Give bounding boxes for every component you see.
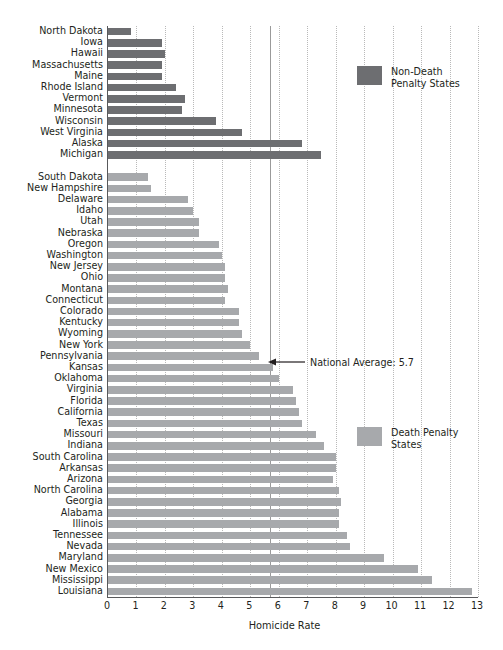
bar-row bbox=[108, 196, 478, 204]
left-arrow-icon bbox=[268, 357, 308, 367]
bar-wisconsin bbox=[108, 117, 216, 125]
y-label-florida: Florida bbox=[0, 396, 103, 406]
bar-row bbox=[108, 297, 478, 305]
bar-minnesota bbox=[108, 106, 182, 114]
legend-death-penalty: Death Penalty States bbox=[357, 427, 458, 450]
bar-new-jersey bbox=[108, 263, 225, 271]
bar-row bbox=[108, 39, 478, 47]
bar-row bbox=[108, 207, 478, 215]
bar-row bbox=[108, 408, 478, 416]
y-label-massachusetts: Massachusetts bbox=[0, 60, 103, 70]
y-label-new-hampshire: New Hampshire bbox=[0, 183, 103, 193]
bar-wyoming bbox=[108, 330, 242, 338]
y-label-arkansas: Arkansas bbox=[0, 463, 103, 473]
bar-florida bbox=[108, 397, 296, 405]
bar-row bbox=[108, 308, 478, 316]
national-average-label: National Average: 5.7 bbox=[310, 357, 414, 368]
bar-row bbox=[108, 330, 478, 338]
x-axis-title-text: Homicide Rate bbox=[249, 620, 321, 631]
y-label-alaska: Alaska bbox=[0, 138, 103, 148]
y-label-wyoming: Wyoming bbox=[0, 328, 103, 338]
bar-massachusetts bbox=[108, 61, 162, 69]
bar-row bbox=[108, 173, 478, 181]
bar-new-hampshire bbox=[108, 185, 151, 193]
y-label-louisiana: Louisiana bbox=[0, 586, 103, 596]
bar-idaho bbox=[108, 207, 193, 215]
y-label-new-jersey: New Jersey bbox=[0, 261, 103, 271]
bar-south-dakota bbox=[108, 173, 148, 181]
y-label-maryland: Maryland bbox=[0, 552, 103, 562]
bar-maryland bbox=[108, 554, 384, 562]
x-tick-5: 5 bbox=[246, 600, 252, 612]
bar-row bbox=[108, 151, 478, 159]
bar-row bbox=[108, 229, 478, 237]
y-label-georgia: Georgia bbox=[0, 496, 103, 506]
bar-south-carolina bbox=[108, 453, 336, 461]
y-label-virginia: Virginia bbox=[0, 384, 103, 394]
bar-indiana bbox=[108, 442, 324, 450]
legend-non-death-penalty: Non-Death Penalty States bbox=[357, 66, 460, 89]
y-label-montana: Montana bbox=[0, 284, 103, 294]
y-label-west-virginia: West Virginia bbox=[0, 127, 103, 137]
bar-row bbox=[108, 185, 478, 193]
y-label-connecticut: Connecticut bbox=[0, 295, 103, 305]
x-tick-2: 2 bbox=[161, 600, 167, 612]
bar-utah bbox=[108, 218, 199, 226]
y-label-minnesota: Minnesota bbox=[0, 104, 103, 114]
bar-illinois bbox=[108, 520, 339, 528]
x-tick-7: 7 bbox=[303, 600, 309, 612]
bar-row bbox=[108, 576, 478, 584]
bar-row bbox=[108, 487, 478, 495]
y-label-michigan: Michigan bbox=[0, 149, 103, 159]
plot-area bbox=[107, 26, 478, 598]
bar-row bbox=[108, 95, 478, 103]
x-tick-11: 11 bbox=[414, 600, 426, 612]
bar-montana bbox=[108, 285, 228, 293]
bar-row bbox=[108, 218, 478, 226]
y-label-ohio: Ohio bbox=[0, 272, 103, 282]
bar-row bbox=[108, 520, 478, 528]
bar-row bbox=[108, 341, 478, 349]
bar-row bbox=[108, 140, 478, 148]
x-tick-4: 4 bbox=[218, 600, 224, 612]
bar-north-carolina bbox=[108, 487, 339, 495]
y-label-nevada: Nevada bbox=[0, 541, 103, 551]
y-label-alabama: Alabama bbox=[0, 508, 103, 518]
y-label-washington: Washington bbox=[0, 250, 103, 260]
bar-colorado bbox=[108, 308, 239, 316]
y-label-oregon: Oregon bbox=[0, 239, 103, 249]
bar-kentucky bbox=[108, 319, 239, 327]
y-label-new-mexico: New Mexico bbox=[0, 564, 103, 574]
x-tick-13: 13 bbox=[471, 600, 483, 612]
bar-ohio bbox=[108, 274, 225, 282]
y-label-rhode-island: Rhode Island bbox=[0, 82, 103, 92]
bar-delaware bbox=[108, 196, 188, 204]
y-label-south-carolina: South Carolina bbox=[0, 452, 103, 462]
bar-pennsylvania bbox=[108, 352, 259, 360]
national-average-annotation: National Average: 5.7 bbox=[268, 356, 414, 368]
y-label-utah: Utah bbox=[0, 216, 103, 226]
bar-missouri bbox=[108, 431, 316, 439]
bar-row bbox=[108, 285, 478, 293]
bar-row bbox=[108, 263, 478, 271]
bar-nebraska bbox=[108, 229, 199, 237]
bar-north-dakota bbox=[108, 28, 131, 36]
y-label-north-dakota: North Dakota bbox=[0, 26, 103, 36]
bar-connecticut bbox=[108, 297, 225, 305]
y-label-maine: Maine bbox=[0, 71, 103, 81]
gridline-13 bbox=[478, 26, 479, 597]
bar-row bbox=[108, 498, 478, 506]
bar-new-mexico bbox=[108, 565, 418, 573]
bar-row bbox=[108, 543, 478, 551]
x-tick-10: 10 bbox=[386, 600, 398, 612]
bar-row bbox=[108, 252, 478, 260]
bar-arkansas bbox=[108, 464, 336, 472]
y-label-illinois: Illinois bbox=[0, 519, 103, 529]
bar-kansas bbox=[108, 364, 273, 372]
bar-louisiana bbox=[108, 588, 472, 596]
bar-row bbox=[108, 397, 478, 405]
bar-alaska bbox=[108, 140, 302, 148]
bar-oregon bbox=[108, 241, 219, 249]
x-tick-12: 12 bbox=[442, 600, 454, 612]
y-label-oklahoma: Oklahoma bbox=[0, 373, 103, 383]
